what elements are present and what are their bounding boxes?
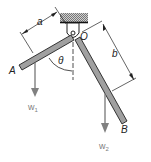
label-w1: w1 xyxy=(27,102,39,113)
pivot-bracket xyxy=(67,23,79,38)
pivot-pin-icon xyxy=(71,31,75,35)
rod-pivot-diagram: a b O θ A B w1 w2 xyxy=(0,0,151,162)
rod-OB xyxy=(75,37,127,124)
label-B: B xyxy=(121,124,128,135)
label-b: b xyxy=(112,48,118,59)
label-A: A xyxy=(8,65,16,76)
rod-OA xyxy=(19,35,74,70)
label-a: a xyxy=(37,16,43,27)
label-theta: θ xyxy=(58,55,64,66)
weight-arrow-w1 xyxy=(31,63,39,97)
label-O: O xyxy=(80,31,88,42)
label-w2: w2 xyxy=(98,141,110,152)
